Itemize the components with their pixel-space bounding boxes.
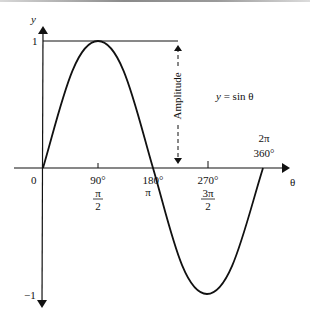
equation-label: y = sin θ xyxy=(215,90,253,102)
y-tick-1: 1 xyxy=(32,35,38,47)
y-axis-label: y xyxy=(30,13,36,25)
x-tick-90-rad-den: 2 xyxy=(95,200,101,212)
y-tick-minus-1: −1 xyxy=(24,289,36,301)
x-tick-180-degrees: 180° xyxy=(143,174,164,186)
x-tick-180-rad: π xyxy=(145,186,151,198)
x-tick-270-rad-num: 3π xyxy=(202,187,214,199)
x-axis-label: θ xyxy=(290,176,295,188)
x-tick-90-degrees: 90° xyxy=(90,174,105,186)
equation-rhs: = sin θ xyxy=(221,90,254,102)
origin-label: 0 xyxy=(31,174,37,186)
x-tick-360-degrees: 360° xyxy=(254,147,275,159)
x-tick-90-rad-num: π xyxy=(95,187,101,199)
x-tick-360-rad: 2π xyxy=(258,132,270,144)
sine-wave-diagram: y 1 −1 θ 0 Amplitude y = sin θ 90° π 2 1… xyxy=(0,0,310,324)
amplitude-label: Amplitude xyxy=(171,72,183,119)
x-tick-270-rad-den: 2 xyxy=(205,200,211,212)
x-tick-270-degrees: 270° xyxy=(198,174,219,186)
